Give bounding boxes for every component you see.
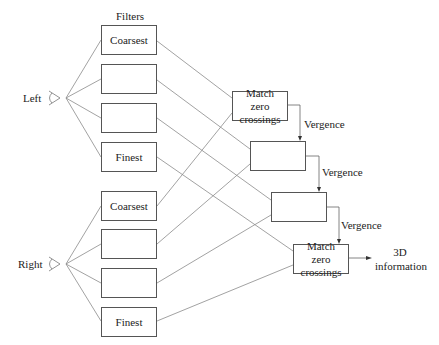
right-filter-3 [101, 268, 157, 298]
left-eye-icon [49, 91, 60, 105]
right-filter-finest: Finest [101, 307, 157, 337]
right-filter-coarsest: Coarsest [101, 191, 157, 221]
matcher-3 [271, 192, 327, 222]
left-filter-finest: Finest [101, 142, 157, 172]
output-label-line2: information [375, 260, 425, 272]
vergence-label-3: Vergence [341, 219, 382, 231]
right-eye-label: Right [18, 258, 42, 270]
matcher-coarsest: Match zero crossings [232, 91, 288, 121]
right-eye-icon [49, 257, 60, 271]
left-filter-3 [101, 103, 157, 133]
left-filter-coarsest: Coarsest [101, 25, 157, 55]
vergence-label-2: Vergence [322, 166, 363, 178]
output-label-line1: 3D [375, 246, 425, 258]
left-eye-label: Left [23, 92, 41, 104]
filters-title: Filters [116, 10, 144, 22]
left-filter-2 [101, 64, 157, 94]
vergence-label-1: Vergence [304, 118, 345, 130]
matcher-finest: Match zero crossings [293, 244, 349, 274]
matcher-2 [250, 141, 306, 171]
right-filter-2 [101, 229, 157, 259]
connection-lines [0, 0, 439, 345]
